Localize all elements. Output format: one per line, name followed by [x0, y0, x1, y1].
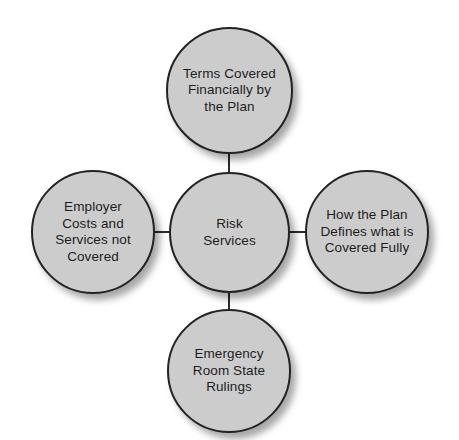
diagram-canvas: Terms Covered Financially by the Plan Em…: [0, 0, 459, 440]
node-emergency-room-state-rulings[interactable]: Emergency Room State Rulings: [167, 309, 291, 433]
node-how-plan-defines-covered-fully[interactable]: How the Plan Defines what is Covered Ful…: [305, 170, 429, 294]
node-employer-costs-services-not-covered[interactable]: Employer Costs and Services not Covered: [31, 170, 155, 294]
node-bottom-label: Emergency Room State Rulings: [184, 346, 274, 396]
node-top-label: Terms Covered Financially by the Plan: [174, 66, 285, 116]
node-left-label: Employer Costs and Services not Covered: [46, 199, 139, 265]
node-terms-covered-financially[interactable]: Terms Covered Financially by the Plan: [166, 27, 293, 154]
node-center-label: Risk Services: [194, 216, 265, 249]
node-right-label: How the Plan Defines what is Covered Ful…: [311, 207, 422, 257]
node-risk-services[interactable]: Risk Services: [169, 172, 290, 293]
